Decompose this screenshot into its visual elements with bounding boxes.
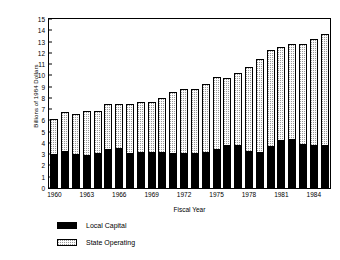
bar-segment-local-capital bbox=[169, 154, 177, 188]
bar-stack bbox=[191, 19, 199, 188]
legend-label-state-operating: State Operating bbox=[86, 239, 135, 247]
y-tick-label: 13 bbox=[38, 38, 49, 45]
bar-series-group bbox=[49, 19, 330, 188]
bar-stack bbox=[245, 19, 253, 188]
bar-segment-state-operating bbox=[115, 104, 123, 150]
bar-segment-state-operating bbox=[137, 102, 145, 153]
bar-segment-local-capital bbox=[234, 146, 242, 188]
bar-segment-local-capital bbox=[267, 147, 275, 188]
bar-stack bbox=[288, 19, 296, 188]
bar-segment-state-operating bbox=[50, 119, 58, 155]
bar-segment-local-capital bbox=[94, 154, 102, 188]
bar-segment-state-operating bbox=[104, 104, 112, 150]
legend-item-state-operating: State Operating bbox=[57, 236, 135, 249]
bar-segment-local-capital bbox=[180, 154, 188, 188]
bar-stack bbox=[126, 19, 134, 188]
bar-stack bbox=[137, 19, 145, 188]
y-tick-label: 11 bbox=[38, 61, 49, 68]
y-tick-label: 15 bbox=[38, 16, 49, 23]
bar-stack bbox=[148, 19, 156, 188]
bar-segment-local-capital bbox=[299, 145, 307, 188]
bar-segment-state-operating bbox=[158, 98, 166, 153]
bar-stack bbox=[94, 19, 102, 188]
x-tick-label: 1978 bbox=[242, 191, 256, 198]
bar-segment-local-capital bbox=[256, 153, 264, 188]
bar-segment-local-capital bbox=[288, 140, 296, 188]
bar-segment-state-operating bbox=[256, 59, 264, 153]
bar-segment-local-capital bbox=[245, 152, 253, 188]
bar-segment-local-capital bbox=[126, 154, 134, 188]
x-tick-label: 1969 bbox=[144, 191, 158, 198]
bar-segment-state-operating bbox=[126, 104, 134, 154]
y-tick-label: 8 bbox=[41, 94, 49, 101]
x-tick-label: 1963 bbox=[80, 191, 94, 198]
bar-stack bbox=[213, 19, 221, 188]
bar-segment-state-operating bbox=[72, 114, 80, 155]
y-tick-label: 4 bbox=[41, 139, 49, 146]
bar-stack bbox=[158, 19, 166, 188]
bar-segment-state-operating bbox=[191, 89, 199, 154]
bar-stack bbox=[50, 19, 58, 188]
bar-segment-state-operating bbox=[213, 77, 221, 150]
y-tick-label: 1 bbox=[41, 173, 49, 180]
bar-stack bbox=[234, 19, 242, 188]
legend-item-local-capital: Local Capital bbox=[57, 219, 135, 232]
bar-stack bbox=[104, 19, 112, 188]
bar-segment-local-capital bbox=[72, 155, 80, 188]
bar-segment-local-capital bbox=[137, 153, 145, 188]
legend-label-local-capital: Local Capital bbox=[86, 222, 126, 230]
bar-stack bbox=[223, 19, 231, 188]
bar-segment-state-operating bbox=[277, 47, 285, 141]
bar-segment-local-capital bbox=[61, 152, 69, 188]
plot-area: 0123456789101112131415 19601963196619691… bbox=[48, 18, 331, 189]
bar-segment-state-operating bbox=[202, 84, 210, 153]
bar-stack bbox=[202, 19, 210, 188]
x-tick-label: 1981 bbox=[274, 191, 288, 198]
y-tick-label: 10 bbox=[38, 72, 49, 79]
y-tick-label: 7 bbox=[41, 106, 49, 113]
bar-stack bbox=[256, 19, 264, 188]
bar-segment-local-capital bbox=[191, 154, 199, 188]
x-axis-title: Fiscal Year bbox=[48, 206, 331, 213]
bar-stack bbox=[72, 19, 80, 188]
bar-stack bbox=[310, 19, 318, 188]
bar-segment-state-operating bbox=[267, 50, 275, 147]
bar-segment-state-operating bbox=[245, 67, 253, 152]
bar-segment-local-capital bbox=[321, 146, 329, 188]
bar-segment-local-capital bbox=[202, 153, 210, 188]
legend-swatch-local-capital bbox=[57, 222, 77, 229]
x-tick-label: 1960 bbox=[47, 191, 61, 198]
bar-segment-state-operating bbox=[288, 44, 296, 139]
bar-segment-state-operating bbox=[169, 92, 177, 154]
y-tick-label: 6 bbox=[41, 117, 49, 124]
bar-segment-local-capital bbox=[50, 155, 58, 188]
legend-swatch-state-operating bbox=[57, 239, 77, 246]
bar-segment-local-capital bbox=[310, 146, 318, 188]
bar-segment-local-capital bbox=[83, 156, 91, 188]
chart-figure: Billions of 1984 Dollars 012345678910111… bbox=[0, 0, 340, 260]
bar-segment-state-operating bbox=[83, 111, 91, 156]
bar-segment-state-operating bbox=[321, 34, 329, 146]
x-tick-label: 1972 bbox=[177, 191, 191, 198]
bar-stack bbox=[83, 19, 91, 188]
bar-segment-local-capital bbox=[148, 153, 156, 188]
bar-stack bbox=[299, 19, 307, 188]
bar-segment-local-capital bbox=[104, 150, 112, 188]
bar-segment-local-capital bbox=[223, 146, 231, 188]
bar-segment-local-capital bbox=[158, 153, 166, 188]
bar-stack bbox=[169, 19, 177, 188]
bar-segment-state-operating bbox=[299, 44, 307, 144]
x-tick-label: 1975 bbox=[209, 191, 223, 198]
bar-segment-local-capital bbox=[277, 141, 285, 188]
y-tick-label: 5 bbox=[41, 128, 49, 135]
bar-segment-state-operating bbox=[180, 89, 188, 154]
bar-stack bbox=[277, 19, 285, 188]
x-tick-label: 1966 bbox=[112, 191, 126, 198]
y-tick-label: 9 bbox=[41, 83, 49, 90]
y-tick-label: 3 bbox=[41, 151, 49, 158]
bar-segment-state-operating bbox=[94, 111, 102, 154]
bar-segment-state-operating bbox=[310, 39, 318, 146]
bar-stack bbox=[267, 19, 275, 188]
y-tick-label: 12 bbox=[38, 49, 49, 56]
bar-stack bbox=[61, 19, 69, 188]
